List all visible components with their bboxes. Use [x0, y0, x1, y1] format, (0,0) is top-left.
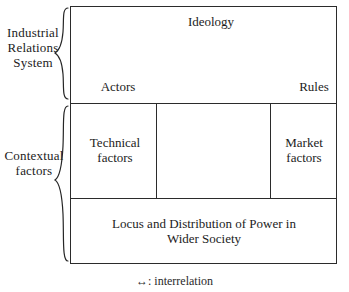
brace-contextual-factors [55, 106, 68, 261]
industrial-relations-system-diagram: IndustrialRelationsSystem Contextualfact… [0, 0, 349, 292]
divider-center-market [270, 103, 271, 198]
brace-industrial-relations-system [55, 8, 68, 99]
node-actors: Actors [90, 79, 146, 94]
divider-technical-center [156, 103, 157, 198]
divider-middle-bottom [70, 198, 337, 199]
divider-top-middle [70, 103, 337, 104]
cell-locus-and-distribution-of-power: Locus and Distribution of Power inWider … [78, 216, 330, 246]
cell-technical-factors: Technicalfactors [76, 135, 154, 165]
node-rules: Rules [292, 79, 336, 94]
node-ideology: Ideology [168, 14, 254, 29]
figure-caption: ↔: interrelation [0, 274, 349, 289]
cell-market-factors: Marketfactors [274, 135, 334, 165]
